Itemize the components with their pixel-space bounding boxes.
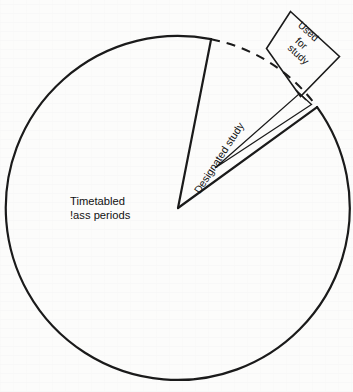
label-timetabled-line2: !ass periods bbox=[70, 209, 131, 221]
pie-chart-svg: Timetabled !ass periods Designated study… bbox=[0, 0, 353, 392]
label-designated-study: Designated study bbox=[191, 120, 246, 196]
pie-chart-figure: Timetabled !ass periods Designated study… bbox=[0, 0, 353, 392]
label-timetabled-line1: Timetabled bbox=[70, 195, 125, 207]
